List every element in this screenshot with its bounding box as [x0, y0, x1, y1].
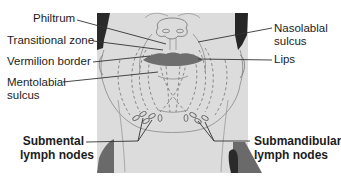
label-mentolabial-line2: sulcus	[7, 89, 66, 102]
label-vermilion-border: Vermilion border	[7, 55, 91, 68]
label-submental-line2: lymph nodes	[20, 148, 84, 162]
label-transitional-zone: Transitional zone	[7, 34, 94, 47]
label-nasolabial-sulcus: Nasolablal sulcus	[274, 22, 328, 48]
label-philtrum: Philtrum	[33, 12, 75, 25]
label-submental-line1: Submental	[20, 134, 84, 148]
label-lips: Lips	[274, 53, 295, 66]
label-submental-lymph-nodes: Submental lymph nodes	[20, 134, 84, 162]
label-mentolabial-line1: Mentolabial	[7, 76, 66, 89]
label-nasolabial-line1: Nasolablal	[274, 22, 328, 35]
label-submandibular-line2: lymph nodes	[254, 148, 341, 162]
label-submandibular-line1: Submandibular	[254, 134, 341, 148]
label-nasolabial-line2: sulcus	[274, 35, 328, 48]
label-submandibular-lymph-nodes: Submandibular lymph nodes	[254, 134, 341, 162]
label-mentolabial-sulcus: Mentolabial sulcus	[7, 76, 66, 102]
